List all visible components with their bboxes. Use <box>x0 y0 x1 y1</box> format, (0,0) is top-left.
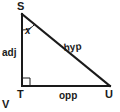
right-triangle-diagram: S T U adj opp hyp x V <box>0 0 120 112</box>
vertex-label-t: T <box>17 88 24 100</box>
vertex-label-s: S <box>17 0 24 12</box>
figure-canvas: S T U adj opp hyp x V <box>0 0 120 112</box>
angle-label-x: x <box>24 25 31 36</box>
side-label-opposite: opp <box>59 90 77 101</box>
corner-mark-label-v: V <box>2 98 10 110</box>
right-angle-marker-icon <box>22 78 30 86</box>
side-label-adjacent: adj <box>2 47 17 58</box>
vertex-label-u: U <box>105 88 113 100</box>
side-label-hypotenuse: hyp <box>63 40 82 53</box>
